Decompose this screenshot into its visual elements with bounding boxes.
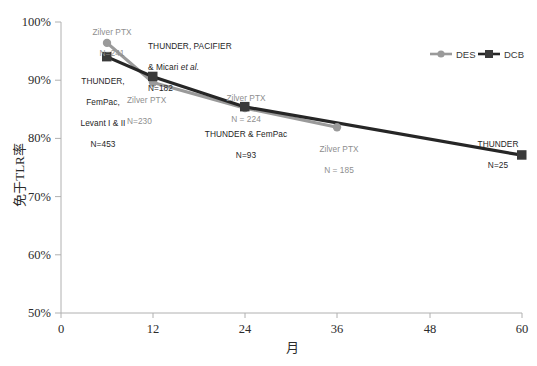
annotation-zilver-ptx-12m-name: Zilver PTX xyxy=(127,95,183,106)
chart-legend: DES DCB xyxy=(430,49,524,60)
annotation-thunder-fempac-levant-count: N=453 xyxy=(64,139,142,150)
legend-marker-dcb xyxy=(485,50,493,58)
legend-marker-des xyxy=(437,50,444,57)
legend-label-dcb: DCB xyxy=(504,49,524,60)
y-tick-label-60: 60% xyxy=(28,248,51,262)
annotation-thunder-60m-name: THUNDER xyxy=(470,139,526,150)
annotation-thunder-fempac-24m-count: N=93 xyxy=(184,150,308,161)
x-tick-marks xyxy=(61,313,522,318)
annotation-zilver-ptx-12m: Zilver PTX N=230 xyxy=(127,84,183,137)
annotation-zilver-ptx-36m-count: N = 185 xyxy=(311,165,367,176)
y-tick-label-70: 70% xyxy=(28,190,51,204)
annotation-zilver-ptx-6m-name: Zilver PTX xyxy=(84,27,140,38)
data-point-des-36m xyxy=(333,123,341,131)
y-axis-title: 免于TLR率 xyxy=(12,143,27,207)
x-tick-label-48: 48 xyxy=(424,322,437,336)
y-tick-label-80: 80% xyxy=(28,131,51,145)
annotation-zilver-ptx-6m-count: N=241 xyxy=(84,48,140,59)
annotation-zilver-ptx-36m-name: Zilver PTX xyxy=(311,144,367,155)
annotation-thunder-60m: THUNDER N=25 xyxy=(470,128,526,181)
annotation-thunder-fempac-24m: THUNDER & FemPac N=93 xyxy=(184,118,308,171)
annotation-micari-text: & Micari xyxy=(148,62,181,72)
y-tick-label-100: 100% xyxy=(22,15,51,29)
annotation-thunder-fempac-24m-name: THUNDER & FemPac xyxy=(184,129,308,140)
annotation-thunder-pacifier-l1: THUNDER, PACIFIER xyxy=(148,41,248,52)
y-tick-label-50: 50% xyxy=(28,306,51,320)
annotation-zilver-ptx-36m: Zilver PTX N = 185 xyxy=(311,133,367,186)
chart-container: 100% 90% 80% 70% 60% 50% 0 12 24 36 48 6… xyxy=(0,0,537,366)
annotation-zilver-ptx-12m-count: N=230 xyxy=(127,116,183,127)
legend-label-des: DES xyxy=(456,49,476,60)
annotation-thunder-60m-count: N=25 xyxy=(470,160,526,171)
annotation-micari-etal: et al. xyxy=(181,62,199,72)
x-tick-label-0: 0 xyxy=(58,322,64,336)
x-tick-label-60: 60 xyxy=(516,322,529,336)
x-tick-label-12: 12 xyxy=(147,322,160,336)
y-tick-marks xyxy=(55,22,61,313)
annotation-zilver-ptx-6m: Zilver PTX N=241 xyxy=(84,16,140,69)
y-tick-label-90: 90% xyxy=(28,73,51,87)
chart-plot-area: 100% 90% 80% 70% 60% 50% 0 12 24 36 48 6… xyxy=(0,0,537,366)
annotation-zilver-ptx-24m-name: Zilver PTX xyxy=(218,93,274,104)
annotation-thunder-pacifier-l2: & Micari et al. xyxy=(148,62,248,73)
x-axis-title: 月 xyxy=(286,340,299,355)
x-tick-label-24: 24 xyxy=(239,322,252,336)
x-tick-label-36: 36 xyxy=(331,322,344,336)
